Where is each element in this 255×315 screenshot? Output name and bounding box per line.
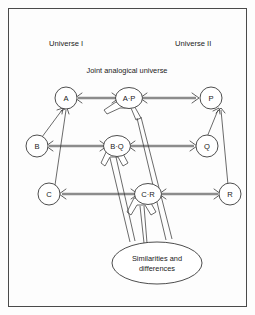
connector-cr-r [159,189,221,199]
node-b[interactable]: B [26,135,48,157]
figure-container: Universe I Universe II Joint analogical … [0,0,255,315]
node-p-label: P [208,94,213,103]
node-cr[interactable]: C·R [135,184,162,205]
ellipse-line-1: Similarities and [132,254,182,263]
node-c-label: C [46,190,52,199]
line-bundle-cr-to-ellipse [140,206,147,243]
node-q[interactable]: Q [196,135,218,157]
ellipse-line-2: differences [139,264,175,273]
node-c[interactable]: C [38,183,60,205]
node-r-label: R [227,190,233,199]
connector-bq-q [128,141,197,151]
node-a[interactable]: A [55,87,77,109]
node-b-label: B [34,142,39,151]
line-bundle-ap-to-ellipse [137,117,172,240]
node-q-label: Q [204,142,210,151]
node-p[interactable]: P [200,87,222,109]
connector-b-bq [46,141,107,151]
heading-universe-i: Universe I [49,39,83,48]
heading-joint-universe: Joint analogical universe [87,66,168,75]
connector-ap-p [140,93,199,103]
similarities-differences-node[interactable]: Similarities and differences [112,242,202,284]
node-r[interactable]: R [219,183,241,205]
arrow-q-to-p [207,108,220,137]
arrow-b-to-a [42,108,63,137]
node-bq[interactable]: B·Q [104,136,131,157]
connector-c-cr [59,189,138,199]
line-bundle-bq-to-ellipse [110,157,135,242]
node-bq-label: B·Q [110,142,124,151]
node-ap[interactable]: A·P [116,88,143,109]
node-cr-label: C·R [141,190,155,199]
heading-universe-ii: Universe II [175,39,211,48]
node-ap-label: A·P [123,94,136,103]
connector-a-ap [75,93,119,103]
